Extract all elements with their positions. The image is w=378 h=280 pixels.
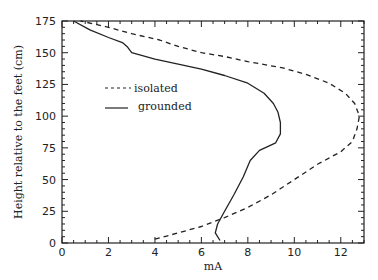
x-tick-labels: 024681012 — [59, 246, 348, 259]
x-tick-label: 4 — [151, 246, 158, 259]
y-axis-title: Height relative to the feet (cm) — [12, 45, 25, 219]
y-tick-label: 175 — [35, 15, 56, 28]
y-tick-label: 100 — [35, 110, 56, 123]
x-tick-label: 8 — [244, 246, 251, 259]
data-series — [74, 21, 360, 241]
x-tick-label: 12 — [334, 246, 348, 259]
line-chart: 024681012 0255075100125150175 mA Height … — [0, 0, 378, 280]
x-tick-label: 6 — [198, 246, 205, 259]
y-tick-label: 25 — [42, 205, 56, 218]
legend-grounded-label: grounded — [138, 100, 192, 113]
series-isolated-line — [81, 21, 360, 239]
legend: isolated grounded — [105, 82, 192, 113]
legend-isolated-label: isolated — [134, 82, 178, 95]
y-tick-label: 150 — [35, 47, 56, 60]
y-tick-label: 0 — [49, 237, 56, 250]
x-axis-title: mA — [204, 260, 223, 273]
x-tick-label: 2 — [105, 246, 112, 259]
x-tick-label: 10 — [287, 246, 301, 259]
y-tick-labels: 0255075100125150175 — [35, 15, 56, 250]
y-tick-label: 50 — [42, 174, 56, 187]
y-tick-label: 75 — [42, 142, 56, 155]
x-tick-label: 0 — [59, 246, 66, 259]
y-tick-label: 125 — [35, 78, 56, 91]
series-grounded-line — [74, 21, 281, 241]
